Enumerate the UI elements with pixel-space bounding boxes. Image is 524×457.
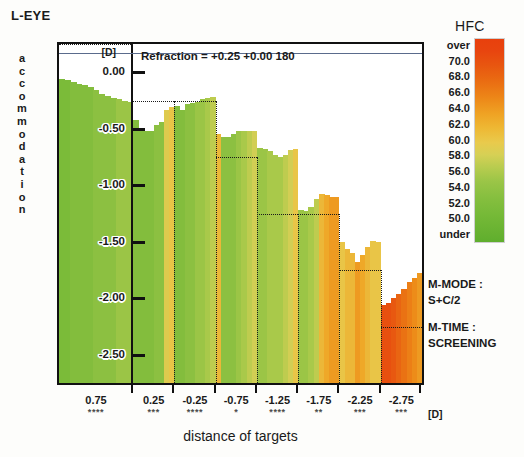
bar-group <box>133 44 174 383</box>
m-time-label: M-TIME : <box>428 320 496 336</box>
hfc-colorbar <box>474 38 505 243</box>
bar-group <box>216 44 257 383</box>
y-axis-gutter <box>59 44 133 383</box>
y-axis-tick-mark <box>133 297 145 300</box>
target-demand-step <box>216 157 257 158</box>
refraction-annotation: Refraction = +0.25 +0.00 180 <box>141 50 295 62</box>
target-demand-riser <box>381 270 382 383</box>
y-caption-letter: i <box>14 178 30 191</box>
bar-group <box>174 44 215 383</box>
hfc-legend-label: under <box>439 228 470 240</box>
x-axis-star-marker: **** <box>70 407 122 417</box>
mode-spacer <box>428 308 496 320</box>
hfc-legend-label: 50.0 <box>449 212 470 224</box>
target-demand-riser <box>339 214 340 384</box>
hfc-legend-label: 68.0 <box>449 70 470 82</box>
x-axis-tick-mark <box>296 385 298 393</box>
hfc-legend-label: 54.0 <box>449 181 470 193</box>
y-caption-letter: o <box>14 191 30 204</box>
y-axis-tick-mark <box>133 354 145 357</box>
target-demand-riser <box>174 101 175 384</box>
x-axis-ticks <box>57 385 424 393</box>
x-axis-caption: distance of targets <box>57 428 424 444</box>
target-demand-step <box>339 270 380 271</box>
hfc-legend-label: 58.0 <box>449 149 470 161</box>
x-axis-tick-mark <box>379 385 381 393</box>
target-demand-step <box>133 101 174 102</box>
target-demand-riser <box>216 101 217 384</box>
bar-group <box>339 44 380 383</box>
y-caption-letter: c <box>14 65 30 78</box>
x-axis-tick-label: -2.75 <box>375 394 427 406</box>
hfc-legend-label: 52.0 <box>449 197 470 209</box>
x-axis-star-marker: *** <box>375 407 427 417</box>
hfc-legend-label: 62.0 <box>449 118 470 130</box>
x-axis-tick-mark <box>337 385 339 393</box>
hfc-legend-label: 60.0 <box>449 134 470 146</box>
hfc-legend-label: 66.0 <box>449 86 470 98</box>
x-axis-unit: [D] <box>428 408 443 420</box>
y-axis-tick-mark <box>133 184 145 187</box>
target-demand-step <box>59 44 133 45</box>
x-axis-tick-mark <box>419 385 421 393</box>
y-axis-tick-mark <box>133 71 145 74</box>
y-axis-caption: accommodation <box>14 52 30 216</box>
y-caption-letter: a <box>14 52 30 65</box>
target-demand-step <box>381 327 422 328</box>
m-time-value: SCREENING <box>428 336 496 352</box>
hfc-legend-label: 64.0 <box>449 102 470 114</box>
m-mode-value: S+C/2 <box>428 293 496 309</box>
y-caption-letter: t <box>14 165 30 178</box>
y-caption-letter: a <box>14 153 30 166</box>
target-demand-riser <box>257 157 258 383</box>
m-mode-label: M-MODE : <box>428 277 496 293</box>
eye-title: L-EYE <box>11 8 50 23</box>
hfc-legend-label: over <box>447 39 470 51</box>
y-caption-letter: o <box>14 90 30 103</box>
target-demand-step <box>257 214 298 215</box>
y-caption-letter: d <box>14 140 30 153</box>
hfc-legend-title: HFC <box>455 18 485 34</box>
x-axis-tick-labels: 0.75****0.25***-0.25****-0.75*-1.25****-… <box>0 394 524 424</box>
hfc-legend-labels: over70.068.066.064.062.060.058.056.054.0… <box>424 36 472 248</box>
y-caption-letter: o <box>14 128 30 141</box>
chart-plot-area: [D]-2.50-2.00-1.50-1.00-0.500.00 Refract… <box>57 42 424 385</box>
hfc-legend-label: 70.0 <box>449 55 470 67</box>
x-axis-tick-mark <box>172 385 174 393</box>
bar-group <box>381 44 422 383</box>
y-axis-tick-mark <box>133 241 145 244</box>
y-caption-letter: m <box>14 102 30 115</box>
target-demand-riser <box>298 214 299 384</box>
y-axis-tick-mark <box>133 128 145 131</box>
x-axis-tick-label: 0.75 <box>70 394 122 406</box>
x-axis-tick-mark <box>131 385 133 393</box>
x-axis-tick-mark <box>255 385 257 393</box>
target-demand-step <box>298 214 339 215</box>
hfc-legend-label: 56.0 <box>449 165 470 177</box>
target-demand-step <box>174 101 215 102</box>
mode-info-block: M-MODE : S+C/2 M-TIME : SCREENING <box>428 277 496 351</box>
x-axis-tick-mark <box>214 385 216 393</box>
y-caption-letter: c <box>14 77 30 90</box>
y-caption-letter: n <box>14 203 30 216</box>
y-caption-letter: m <box>14 115 30 128</box>
